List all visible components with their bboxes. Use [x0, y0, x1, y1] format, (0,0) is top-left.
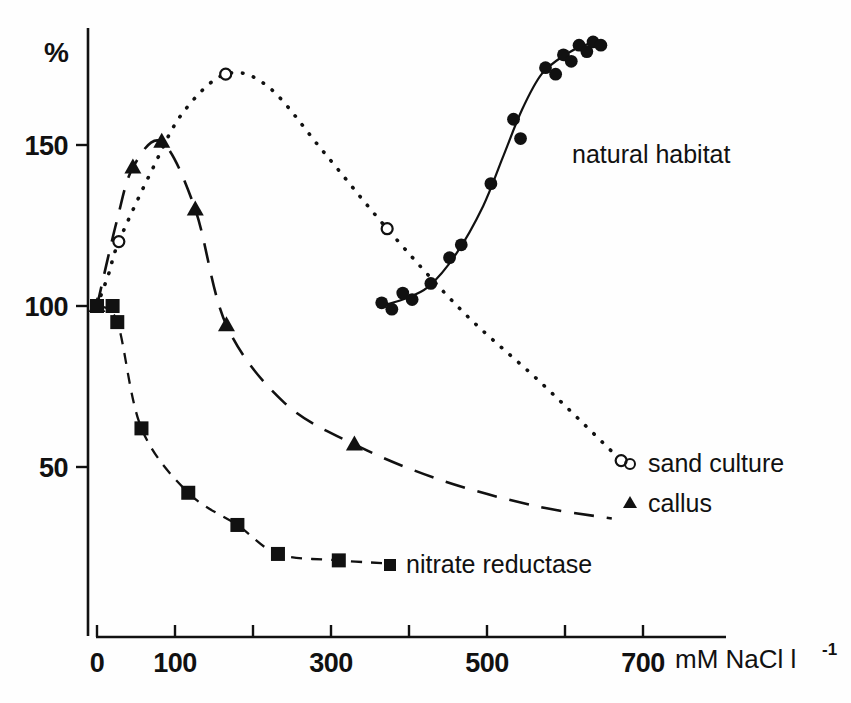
axis-group: 0100300500700 50100150 [24, 28, 726, 678]
y-tick-label: 100 [24, 292, 68, 322]
y-tick-label: 150 [24, 131, 68, 161]
sand-culture-curve [97, 73, 621, 461]
data-point [385, 303, 398, 316]
x-tick-label: 700 [621, 648, 665, 678]
data-point [90, 299, 104, 313]
data-point [594, 39, 607, 52]
figure-root: 0100300500700 50100150 % mM NaCl l -1 na… [0, 0, 851, 703]
chart-canvas: 0100300500700 50100150 % mM NaCl l -1 na… [0, 0, 851, 703]
data-point [271, 547, 285, 561]
callus-markers [89, 133, 363, 451]
data-point [549, 68, 562, 81]
x-tick-label: 0 [90, 648, 105, 678]
x-tick-labels: 0100300500700 [90, 648, 665, 678]
data-point [106, 299, 120, 313]
data-point [134, 421, 148, 435]
data-point [110, 315, 124, 329]
data-point [230, 518, 244, 532]
x-tick-label: 300 [309, 648, 353, 678]
data-point [124, 159, 141, 174]
data-point [406, 293, 419, 306]
data-point [332, 553, 346, 567]
data-point [485, 177, 498, 190]
data-point [220, 69, 231, 80]
sand-culture-label: sand culture [648, 449, 784, 477]
data-point [382, 223, 393, 234]
data-point [181, 486, 195, 500]
series-curves [97, 42, 621, 564]
data-point [455, 238, 468, 251]
x-axis-title-exponent: -1 [822, 640, 837, 659]
natural-habitat-markers [375, 36, 607, 316]
y-tick-labels: 50100150 [24, 131, 68, 483]
callus-label: callus [648, 489, 712, 517]
data-point [218, 316, 235, 331]
nitrate-reductase-legend-marker [384, 559, 396, 571]
natural-habitat-curve [379, 42, 602, 306]
data-point [443, 251, 456, 264]
callus-curve [97, 140, 612, 518]
nitrate-reductase-markers [90, 299, 346, 567]
y-tick-label: 50 [39, 453, 68, 483]
data-point [507, 113, 520, 126]
data-point [113, 236, 124, 247]
data-point [346, 435, 363, 450]
data-point [514, 132, 527, 145]
data-point [187, 200, 204, 215]
nitrate-reductase-label: nitrate reductase [406, 550, 592, 578]
y-tick-marks [76, 145, 88, 467]
callus-legend-marker [623, 496, 637, 508]
x-axis-title: mM NaCl l [675, 644, 796, 674]
natural-habitat-label: natural habitat [572, 140, 731, 168]
data-point [565, 55, 578, 68]
sand-culture-markers [92, 69, 627, 466]
y-axis-unit-label: % [44, 37, 69, 68]
x-tick-label: 500 [465, 648, 509, 678]
data-point [424, 277, 437, 290]
x-tick-marks [97, 625, 643, 637]
x-tick-label: 100 [153, 648, 197, 678]
